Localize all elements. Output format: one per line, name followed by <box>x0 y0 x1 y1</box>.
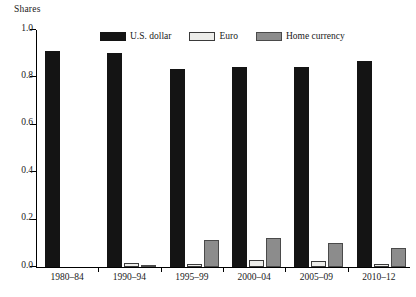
bar-eur <box>124 263 139 267</box>
bar-usd <box>294 67 309 267</box>
y-tick-label: 0.6 <box>21 117 33 127</box>
bar-chart-figure: Shares U.S. dollar Euro Home currency 0.… <box>0 0 416 297</box>
bar-eur <box>249 260 264 267</box>
x-axis-label: 2005–09 <box>285 272 347 282</box>
bar-group <box>36 30 98 267</box>
bar-usd <box>170 69 185 267</box>
bar-home <box>266 238 281 267</box>
bar-group <box>348 30 410 267</box>
y-tick-label: 0.2 <box>21 212 33 222</box>
x-axis-label: 1990–94 <box>98 272 160 282</box>
bar-group <box>285 30 347 267</box>
bar-group <box>223 30 285 267</box>
x-axis-label: 2010–12 <box>348 272 410 282</box>
bar-usd <box>232 67 247 267</box>
bar-eur <box>311 261 326 267</box>
bar-home <box>391 248 406 267</box>
y-tick-label: 0.8 <box>21 70 33 80</box>
bar-usd <box>357 61 372 267</box>
bar-group <box>161 30 223 267</box>
bar-home <box>204 240 219 267</box>
bar-home <box>328 243 343 267</box>
bar-usd <box>45 51 60 267</box>
bar-eur <box>187 264 202 267</box>
x-axis-label: 1995–99 <box>161 272 223 282</box>
bar-eur <box>374 264 389 267</box>
y-tick-label: 0.4 <box>21 165 33 175</box>
bar-home <box>141 265 156 267</box>
plot-area: 0.00.20.40.60.81.0 1980–841990–941995–99… <box>36 30 410 268</box>
y-axis-title: Shares <box>14 4 41 14</box>
bar-group <box>98 30 160 267</box>
y-tick-label: 0.0 <box>21 260 33 270</box>
y-tick-label: 1.0 <box>21 23 33 33</box>
bar-usd <box>107 53 122 267</box>
x-axis-label: 2000–04 <box>223 272 285 282</box>
x-axis-label: 1980–84 <box>36 272 98 282</box>
